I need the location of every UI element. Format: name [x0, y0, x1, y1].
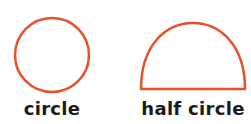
half-circle-shape	[141, 23, 245, 89]
half-circle-label: half circle	[133, 98, 251, 119]
circle-shape	[15, 18, 89, 92]
circle-label: circle	[12, 98, 92, 119]
